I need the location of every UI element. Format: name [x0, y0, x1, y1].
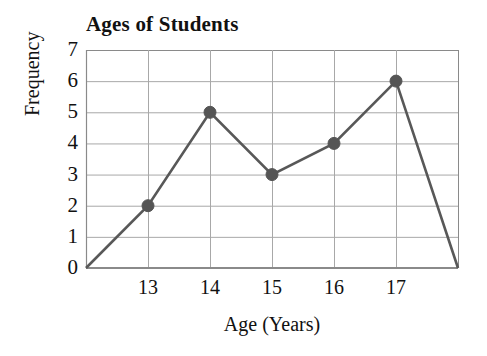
y-axis-tick-5: 5: [52, 101, 78, 122]
y-axis-tick-4: 4: [52, 132, 78, 153]
y-axis-tick-3: 3: [52, 164, 78, 185]
y-axis-title: Frequency: [20, 0, 44, 116]
y-axis-tick-6: 6: [52, 70, 78, 91]
x-axis-tick-17: 17: [376, 276, 416, 298]
y-axis-tick-7: 7: [52, 39, 78, 60]
x-axis-title: Age (Years): [86, 312, 458, 336]
x-axis-tick-16: 16: [314, 276, 354, 298]
y-axis-tick-1: 1: [52, 226, 78, 247]
vertical-gridlines: [87, 50, 459, 268]
x-axis-tick-13: 13: [128, 276, 168, 298]
plot-area: [86, 50, 458, 268]
x-axis-tick-15: 15: [252, 276, 292, 298]
chart-plot-svg: [86, 50, 458, 268]
y-axis-tick-0: 0: [52, 257, 78, 278]
x-axis-tick-14: 14: [190, 276, 230, 298]
y-axis-tick-2: 2: [52, 195, 78, 216]
chart-container: Ages of Students Frequency Age (Years) 0…: [0, 0, 487, 356]
chart-title: Ages of Students: [86, 12, 386, 36]
